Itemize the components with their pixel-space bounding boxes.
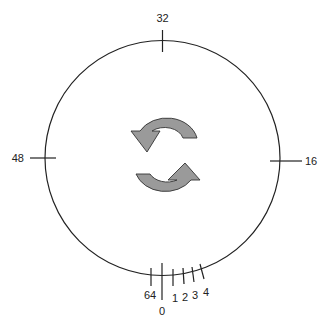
label-32: 32 — [156, 12, 168, 24]
dial-diagram: 32 48 16 0 64 1 2 3 4 — [0, 0, 327, 329]
label-16: 16 — [305, 155, 317, 167]
label-4: 4 — [203, 286, 209, 298]
arrow-bottom-icon — [136, 163, 200, 191]
arrow-top-icon — [131, 118, 197, 152]
label-3: 3 — [192, 289, 198, 301]
tick-3 — [192, 267, 194, 282]
tick-2 — [183, 268, 184, 284]
label-64: 64 — [144, 289, 156, 301]
label-48: 48 — [12, 152, 24, 164]
tick-4 — [200, 264, 204, 279]
label-1: 1 — [172, 292, 178, 304]
rotate-arrows-icon — [131, 118, 200, 191]
label-0: 0 — [159, 305, 165, 317]
dial-circle — [45, 41, 280, 276]
label-2: 2 — [182, 291, 188, 303]
